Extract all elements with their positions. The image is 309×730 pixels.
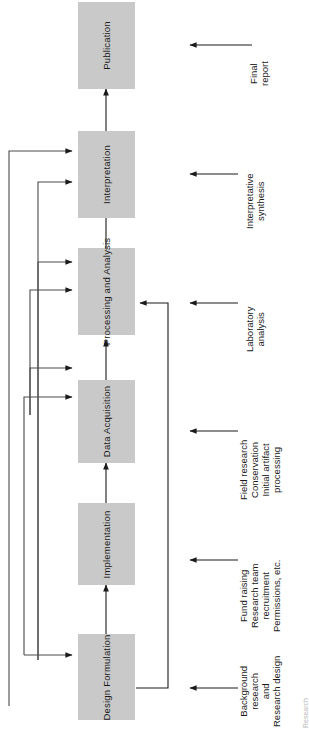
caption-funding-line-4: Permissions, etc. [271,560,282,632]
node-processing-line-2: and [101,277,112,293]
caption-field-line-3: Initial artifact [260,440,271,500]
caption-field-line-2: Conservation [249,440,260,500]
corner-note: Research [302,698,309,728]
node-design-formulation[interactable]: Design Formulation [78,634,135,720]
caption-fund-raising: Fund raising Research team recruitment P… [238,560,282,632]
caption-laboratory-line-1: Laboratory [244,307,255,352]
node-data-line-1: Data [101,436,112,457]
flowchart-canvas: Publication Interpretation Processing an… [0,0,309,730]
caption-field-research: Field research Conservation Initial arti… [238,440,282,500]
caption-funding-line-3: recruitment [260,560,271,632]
node-processing-line-1: Processing [101,296,112,345]
caption-background-research: Background research and Research design [238,656,282,727]
node-interpretation[interactable]: Interpretation [78,131,135,218]
caption-final-report-line-2: report [259,61,270,86]
node-publication[interactable]: Publication [78,2,135,89]
caption-final-report: Final report [248,61,270,86]
caption-laboratory-line-2: analysis [255,307,266,352]
caption-background-line-3: and [260,656,271,727]
left-feedback-loops [9,151,72,706]
node-processing-and-analysis-label: Processing and Analysis [101,238,112,346]
node-data-acquisition-label: Data Acquisition [101,386,112,457]
node-publication-label: Publication [101,21,112,70]
node-processing-line-3: Analysis [101,238,112,275]
node-design-line-2: Formulation [101,634,112,686]
node-data-acquisition[interactable]: Data Acquisition [78,380,135,463]
caption-field-line-4: processing [271,440,282,500]
caption-background-line-1: Background [238,656,249,727]
caption-background-line-4: Research design [271,656,282,727]
node-data-line-2: Acquisition [101,386,112,434]
node-design-formulation-label: Design Formulation [101,634,112,720]
caption-interpretative-synthesis: Interpretative synthesis [244,174,266,229]
node-design-line-1: Design [101,689,112,720]
caption-interpretative-line-1: Interpretative [244,174,255,229]
caption-funding-line-2: Research team [249,560,260,632]
caption-field-line-1: Field research [238,440,249,500]
caption-background-line-2: research [249,656,260,727]
node-implementation-label: Implementation [101,510,112,578]
node-interpretation-label: Interpretation [101,145,112,204]
caption-funding-line-1: Fund raising [238,560,249,632]
right-feedback-loop [136,303,168,688]
caption-interpretative-line-2: synthesis [255,174,266,229]
caption-final-report-line-1: Final [248,61,259,86]
node-implementation[interactable]: Implementation [78,503,135,585]
caption-laboratory-analysis: Laboratory analysis [244,307,266,352]
node-processing-and-analysis[interactable]: Processing and Analysis [78,248,135,335]
